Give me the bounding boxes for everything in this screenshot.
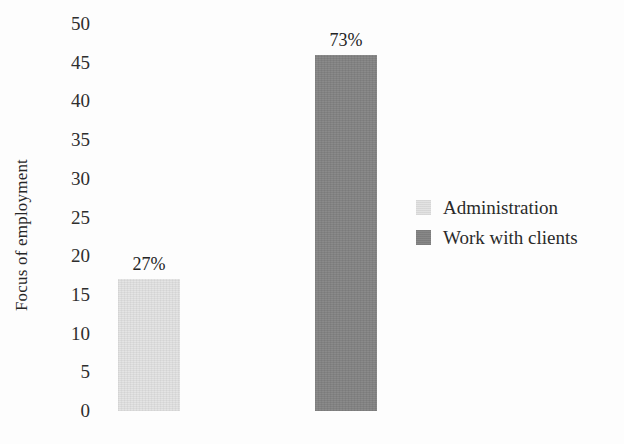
chart-legend: AdministrationWork with clients (416, 192, 616, 252)
legend-swatch-icon (416, 200, 431, 215)
bar-2[interactable]: 73% (315, 55, 377, 411)
legend-swatch-icon (416, 230, 431, 245)
bar-data-label: 27% (133, 255, 166, 273)
y-axis-tick-label: 20 (44, 246, 90, 265)
y-axis-tick-labels: 50454035302520151050 (44, 0, 90, 444)
y-axis-tick-label: 25 (44, 208, 90, 227)
y-axis-tick-label: 5 (44, 362, 90, 381)
y-axis-tick-label: 0 (44, 401, 90, 420)
bar-data-label: 73% (330, 31, 363, 49)
y-axis-tick-label: 50 (44, 14, 90, 33)
legend-label: Work with clients (443, 228, 578, 247)
legend-item[interactable]: Work with clients (416, 222, 616, 252)
y-axis-tick-label: 40 (44, 91, 90, 110)
bar-chart: Focus of employment 50454035302520151050… (0, 0, 624, 444)
y-axis-tick-label: 15 (44, 285, 90, 304)
y-axis-tick-label: 45 (44, 53, 90, 72)
y-axis-title: Focus of employment (12, 120, 38, 350)
y-axis-tick-label: 30 (44, 169, 90, 188)
bar-1[interactable]: 27% (118, 279, 180, 411)
y-axis-tick-label: 10 (44, 324, 90, 343)
bar-rect[interactable]: 73% (315, 55, 377, 411)
plot-area: 27%73% (96, 18, 396, 418)
legend-label: Administration (443, 198, 558, 217)
y-axis-tick-label: 35 (44, 130, 90, 149)
bar-rect[interactable]: 27% (118, 279, 180, 411)
legend-item[interactable]: Administration (416, 192, 616, 222)
